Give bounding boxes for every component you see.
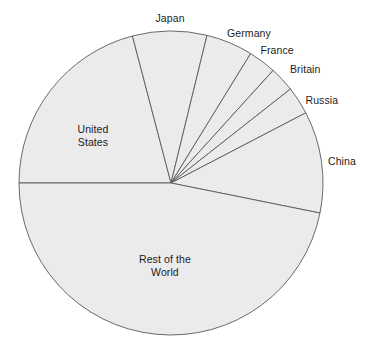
pie-chart-canvas [0,0,374,354]
pie-label-united-states: United States [78,123,109,148]
pie-label-china: China [328,155,356,168]
pie-label-russia: Russia [306,94,339,107]
pie-slices-group [19,31,323,335]
pie-label-france: France [261,44,294,57]
pie-chart-figure: United StatesJapanGermanyFranceBritainRu… [0,0,374,354]
pie-label-rest-of-the-world: Rest of the World [139,253,191,278]
pie-label-britain: Britain [290,63,320,76]
pie-label-japan: Japan [156,12,185,25]
pie-label-germany: Germany [227,27,271,40]
